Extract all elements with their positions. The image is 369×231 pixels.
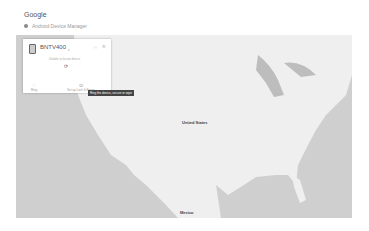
location-pin-icon xyxy=(24,24,28,28)
refresh-icon[interactable]: ⟳ xyxy=(64,63,68,69)
device-status: Unable to locate device xyxy=(49,57,80,61)
info-icon[interactable]: ⓘ xyxy=(93,44,97,50)
google-logo[interactable]: Google xyxy=(24,11,47,18)
map-label-us: United States xyxy=(182,120,208,125)
ring-button[interactable]: ◌ Ring xyxy=(31,82,37,92)
device-panel: BNTV400 ▾ ⓘ ⚙ Unable to locate device ⟳ … xyxy=(23,39,111,93)
ring-label: Ring xyxy=(31,88,37,92)
tablet-icon xyxy=(29,44,36,54)
app-title-label: Android Device Manager xyxy=(32,23,87,29)
tooltip: Ring the device, secure or wipe xyxy=(88,90,134,96)
device-name-dropdown[interactable]: BNTV400 xyxy=(40,44,66,50)
app-title[interactable]: Android Device Manager xyxy=(24,23,87,29)
map-label-mexico: Mexico xyxy=(180,210,194,215)
chevron-down-icon[interactable]: ▾ xyxy=(68,48,70,52)
settings-icon[interactable]: ⚙ xyxy=(102,44,106,49)
